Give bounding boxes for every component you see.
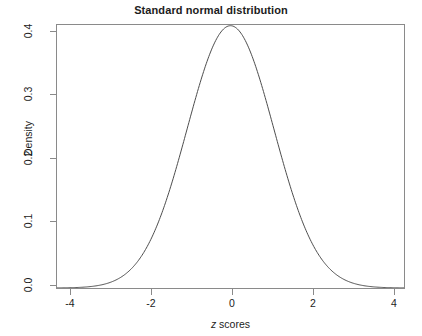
chart-page: Standard normal distribution -4 -2 0 2 4…	[0, 0, 422, 336]
y-tick-label: 0.0	[21, 268, 35, 302]
x-axis-title-rest: scores	[216, 318, 250, 330]
y-tick-mark	[50, 158, 56, 159]
x-tick-mark	[394, 289, 395, 295]
x-tick-mark	[232, 289, 233, 295]
x-axis-title: z scores	[56, 318, 405, 330]
x-tick-label: 0	[212, 297, 252, 309]
plot-area	[56, 24, 405, 289]
y-tick-label: 0.3	[21, 77, 35, 111]
density-curve-svg	[57, 25, 404, 288]
chart-title: Standard normal distribution	[0, 4, 422, 16]
y-tick-mark	[50, 31, 56, 32]
x-tick-label: 4	[374, 297, 414, 309]
x-tick-mark	[313, 289, 314, 295]
y-tick-mark	[50, 285, 56, 286]
y-tick-label: 0.4	[21, 14, 35, 48]
x-tick-label: -2	[131, 297, 171, 309]
y-axis-title: Density	[22, 121, 34, 156]
x-tick-mark	[70, 289, 71, 295]
y-tick-mark	[50, 221, 56, 222]
x-tick-label: -4	[50, 297, 90, 309]
y-tick-label: 0.1	[21, 204, 35, 238]
y-tick-mark	[50, 94, 56, 95]
x-tick-label: 2	[293, 297, 333, 309]
x-tick-mark	[151, 289, 152, 295]
normal-density-curve	[57, 26, 404, 288]
